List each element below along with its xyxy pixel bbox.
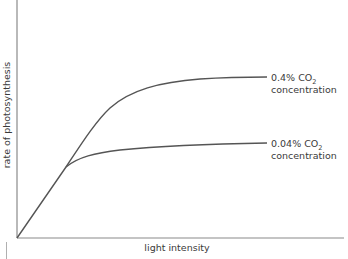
curve-0.04-percent-co2 (66, 143, 267, 167)
label-0.4-co2-line2: concentration (271, 84, 337, 95)
y-axis-title: rate of photosynthesis (1, 62, 12, 169)
label-0.04-co2-line2: concentration (271, 150, 337, 161)
x-axis-title: light intensity (144, 242, 210, 253)
curve-0.4-percent-co2 (17, 77, 267, 238)
photosynthesis-chart: 0.4% CO2 concentration 0.04% CO2 concent… (0, 0, 348, 259)
